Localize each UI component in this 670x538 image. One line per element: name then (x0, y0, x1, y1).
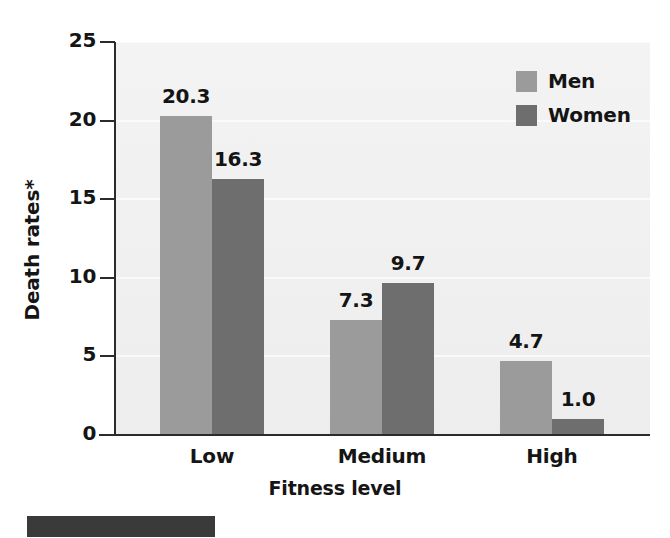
bar-value-label: 9.7 (368, 251, 448, 275)
bar-medium-men (330, 320, 382, 435)
scan-artifact-bar (27, 516, 215, 537)
y-axis-tick (100, 434, 115, 436)
y-axis-tick-label: 25 (26, 28, 96, 52)
bar-value-label: 7.3 (316, 288, 396, 312)
bar-value-label: 16.3 (198, 147, 278, 171)
y-axis-line (114, 42, 116, 436)
legend-swatch-women-icon (516, 105, 537, 126)
x-axis-line (99, 434, 650, 436)
y-axis-tick (100, 355, 115, 357)
legend-swatch-men-icon (516, 71, 537, 92)
gridline (115, 42, 650, 43)
y-axis-tick (100, 120, 115, 122)
y-axis-tick-label: 0 (26, 421, 96, 445)
legend-label-men: Men (548, 69, 595, 93)
y-axis-tick (100, 41, 115, 43)
x-axis-title: Fitness level (0, 477, 670, 499)
bar-value-label: 20.3 (146, 84, 226, 108)
legend: Men Women (516, 64, 631, 132)
y-axis-tick-label: 20 (26, 107, 96, 131)
y-axis-tick-label: 5 (26, 342, 96, 366)
x-axis-label-high: High (450, 444, 654, 468)
legend-item-women: Women (516, 98, 631, 132)
legend-label-women: Women (548, 103, 631, 127)
y-axis-tick (100, 277, 115, 279)
bar-value-label: 4.7 (486, 329, 566, 353)
y-axis-tick-label: 15 (26, 185, 96, 209)
legend-item-men: Men (516, 64, 631, 98)
y-axis-tick-label: 10 (26, 264, 96, 288)
bar-high-women (552, 419, 604, 435)
bar-low-women (212, 179, 264, 435)
y-axis-tick (100, 198, 115, 200)
y-axis-title: Death rates* (20, 145, 44, 355)
bar-chart-figure: Death rates* 0510152025 20.316.37.39.74.… (0, 0, 670, 538)
bar-value-label: 1.0 (538, 387, 618, 411)
